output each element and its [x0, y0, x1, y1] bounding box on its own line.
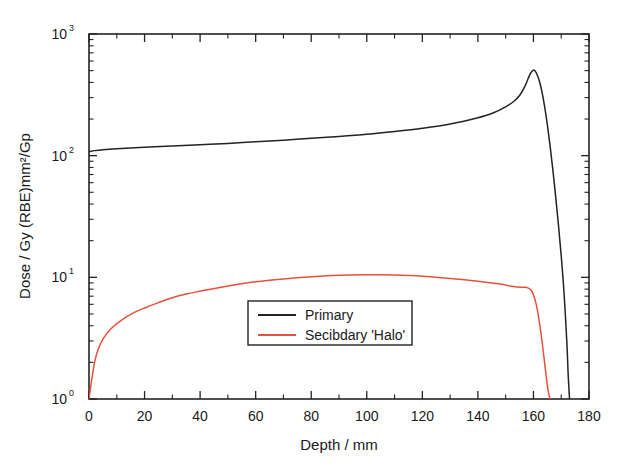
x-tick-label: 60 [248, 408, 264, 424]
x-tick-label: 40 [192, 408, 208, 424]
dose-depth-chart: 020406080100120140160180 100101102103 De… [0, 0, 633, 469]
y-tick-label-exponent: 0 [69, 388, 74, 398]
x-axis-title: Depth / mm [300, 436, 378, 453]
chart-legend: PrimarySecibdary 'Halo' [248, 301, 412, 345]
y-tick-label-mantissa: 10 [51, 391, 67, 407]
x-tick-label: 100 [355, 408, 379, 424]
y-tick-label-exponent: 3 [69, 23, 74, 33]
legend-label-0: Primary [305, 307, 353, 323]
x-tick-label: 80 [303, 408, 319, 424]
y-tick-label-exponent: 1 [69, 266, 74, 276]
legend-label-1: Secibdary 'Halo' [305, 327, 405, 343]
x-tick-label: 160 [522, 408, 546, 424]
x-tick-label: 120 [411, 408, 435, 424]
x-tick-label: 0 [85, 408, 93, 424]
y-tick-label-exponent: 2 [69, 145, 74, 155]
y-tick-label-mantissa: 10 [51, 269, 67, 285]
x-tick-label: 140 [466, 408, 490, 424]
y-axis-title: Dose / Gy (RBE)mm²/Gp [16, 133, 33, 299]
y-tick-label-mantissa: 10 [51, 148, 67, 164]
x-tick-label: 180 [577, 408, 601, 424]
y-tick-label-mantissa: 10 [51, 26, 67, 42]
x-tick-label: 20 [137, 408, 153, 424]
